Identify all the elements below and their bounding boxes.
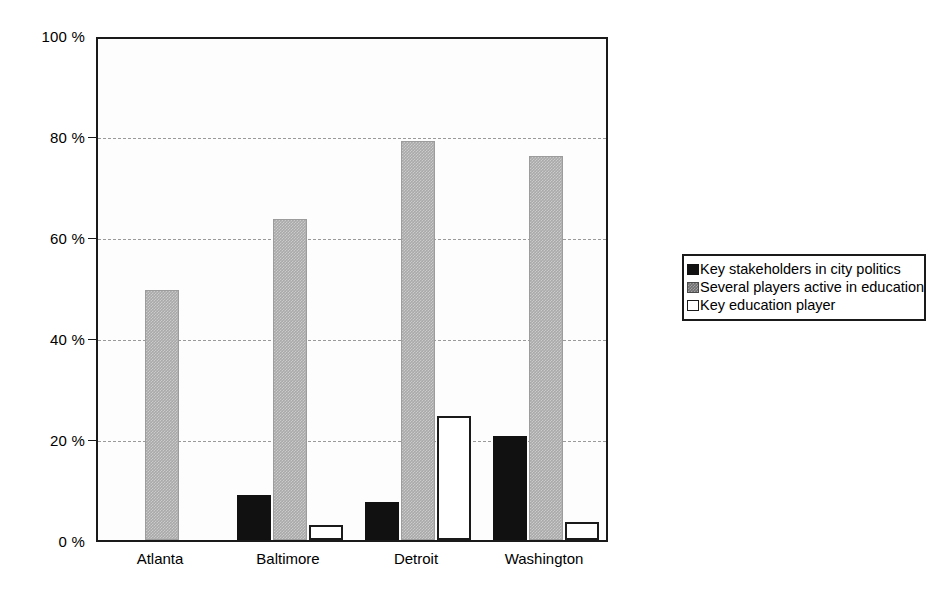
bar-group-detroit [365,39,471,540]
x-tick-label-detroit: Detroit [352,550,480,567]
y-tick-label: 40 % [0,332,85,347]
x-tick-label-baltimore: Baltimore [224,550,352,567]
x-tick-label-atlanta: Atlanta [96,550,224,567]
legend-item-label: Key stakeholders in city politics [700,261,901,277]
plot-inner [98,39,606,540]
plot-area [96,37,608,542]
bar-group-atlanta [109,39,215,540]
legend-swatch-icon [687,282,699,293]
y-tick-label: 100 % [0,29,85,44]
legend-item-label: Several players active in education [700,279,924,295]
bar-baltimore-series-1 [237,495,271,540]
bar-group-baltimore [237,39,343,540]
legend-item-1[interactable]: Key stakeholders in city politics [687,260,921,278]
bar-atlanta-series-2 [145,290,179,540]
chart-legend: Key stakeholders in city politicsSeveral… [682,254,926,321]
bar-washington-series-1 [493,436,527,540]
bar-chart: 0 %20 %40 %60 %80 %100 % AtlantaBaltimor… [0,0,951,589]
bar-detroit-series-3 [437,416,471,540]
legend-item-2[interactable]: Several players active in education [687,278,921,296]
bar-washington-series-2 [529,156,563,540]
y-tick-label: 80 % [0,130,85,145]
x-tick-label-washington: Washington [480,550,608,567]
legend-swatch-icon [687,264,699,275]
bar-baltimore-series-3 [309,525,343,540]
y-tick-label: 60 % [0,231,85,246]
y-tick-label: 0 % [0,534,85,549]
bar-detroit-series-2 [401,141,435,540]
bar-group-washington [493,39,599,540]
y-tick-label: 20 % [0,433,85,448]
legend-swatch-icon [687,300,699,311]
bar-detroit-series-1 [365,502,399,540]
bar-baltimore-series-2 [273,219,307,540]
legend-item-3[interactable]: Key education player [687,296,921,314]
bar-washington-series-3 [565,522,599,540]
legend-item-label: Key education player [700,297,835,313]
